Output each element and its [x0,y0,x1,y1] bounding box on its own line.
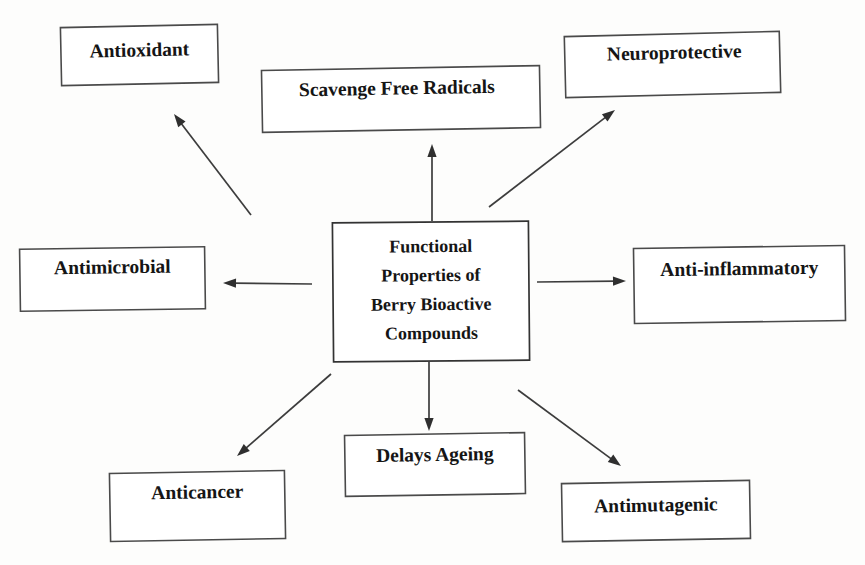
node-antioxidant[interactable]: Antioxidant [60,24,218,85]
node-antimutagenic[interactable]: Antimutagenic [562,480,751,541]
node-delays-ageing[interactable]: Delays Ageing [345,433,526,497]
edge-to-antimutagenic [518,390,621,466]
node-label-neuroprotective: Neuroprotective [607,40,742,64]
node-antimicrobial[interactable]: Antimicrobial [20,247,206,312]
edge-to-antimicrobial [223,279,312,288]
edge-to-anticancer [237,374,331,456]
edge-to-antioxidant [174,114,251,215]
node-scavenge-free-radicals[interactable]: Scavenge Free Radicals [261,66,540,133]
center-node-layer: FunctionalProperties ofBerry BioactiveCo… [332,221,529,362]
center-label-line-2: Properties of [381,265,481,286]
node-anticancer[interactable]: Anticancer [109,470,285,541]
node-label-antimutagenic: Antimutagenic [594,493,718,516]
center-label-line-4: Compounds [385,323,478,344]
node-neuroprotective[interactable]: Neuroprotective [564,31,780,97]
center-label-line-1: Functional [389,236,472,257]
node-center[interactable]: FunctionalProperties ofBerry BioactiveCo… [332,221,529,362]
node-label-anti-inflammatory: Anti-inflammatory [660,257,819,280]
node-label-scavenge-free-radicals: Scavenge Free Radicals [299,76,495,100]
node-label-antimicrobial: Antimicrobial [54,256,172,279]
node-label-anticancer: Anticancer [151,481,244,504]
edge-to-anti-inflammatory [537,277,626,286]
center-label-line-3: Berry Bioactive [371,294,492,315]
edge-to-delays-ageing [424,362,433,431]
concept-diagram: AntioxidantScavenge Free RadicalsNeuropr… [0,0,865,565]
node-anti-inflammatory[interactable]: Anti-inflammatory [633,246,845,324]
diagram-canvas: AntioxidantScavenge Free RadicalsNeuropr… [0,0,865,565]
node-label-delays-ageing: Delays Ageing [376,443,494,466]
node-label-antioxidant: Antioxidant [89,38,190,61]
edge-to-scavenge-free-radicals [427,144,436,221]
